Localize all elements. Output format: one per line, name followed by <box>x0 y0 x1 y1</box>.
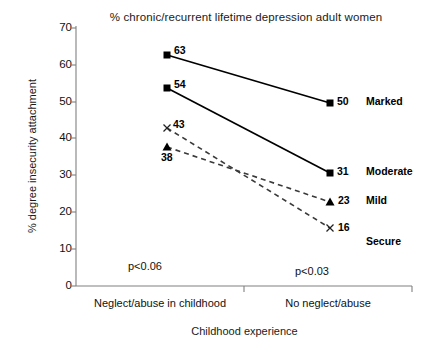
point-label-moderate-left: 54 <box>174 78 186 90</box>
marker-secure-left <box>164 125 171 132</box>
point-label-mild-right: 23 <box>338 194 350 206</box>
marker-mild-right <box>326 198 335 206</box>
marker-marked-left <box>164 52 171 59</box>
point-label-marked-right: 50 <box>337 95 349 107</box>
point-label-moderate-right: 31 <box>337 165 349 177</box>
x-tick-marks <box>244 286 412 292</box>
series-line-mild <box>167 147 330 202</box>
series-label-moderate: Moderate <box>366 165 413 177</box>
series-label-marked: Marked <box>366 95 403 107</box>
series-line-secure <box>167 128 330 228</box>
annotation-p-left: p<0.06 <box>128 260 162 272</box>
series-line-moderate <box>167 88 330 173</box>
marker-marked-right <box>327 100 334 107</box>
x-category-label-right: No neglect/abuse <box>244 297 412 309</box>
chart-figure: % chronic/recurrent lifetime depression … <box>0 0 431 349</box>
y-tick-marks <box>71 28 76 286</box>
marker-mild-left <box>163 143 172 151</box>
series-line-marked <box>167 55 330 103</box>
point-label-mild-left: 38 <box>161 151 173 163</box>
series-label-mild: Mild <box>366 194 387 206</box>
series-label-secure: Secure <box>366 235 401 247</box>
annotation-p-right: p<0.03 <box>295 265 329 277</box>
marker-moderate-left <box>164 85 171 92</box>
marker-secure-right <box>327 225 334 232</box>
point-label-secure-left: 43 <box>173 118 185 130</box>
x-category-label-left: Neglect/abuse in childhood <box>76 297 244 309</box>
point-label-marked-left: 63 <box>174 44 186 56</box>
point-label-secure-right: 16 <box>338 221 350 233</box>
marker-moderate-right <box>327 170 334 177</box>
